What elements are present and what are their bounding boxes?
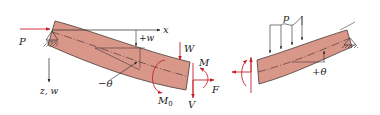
internal-moment-arrow — [200, 68, 208, 88]
distributed-load-label: p — [283, 12, 290, 23]
applied-moment-label: M0 — [157, 95, 173, 108]
axial-force-label: F — [211, 84, 220, 95]
left-beam-body — [48, 21, 190, 90]
axial-load-label: P — [18, 36, 26, 47]
x-axis-label: x — [163, 24, 169, 35]
transverse-load-label: W — [184, 43, 195, 54]
left-beam-group: x z, w P +w −θ M0 W F V M — [18, 21, 220, 110]
right-tangent-extension — [340, 22, 355, 30]
right-internal-moment-arrow — [242, 60, 247, 86]
beam-sign-convention-diagram: x z, w P +w −θ M0 W F V M — [0, 0, 380, 115]
rotation-label-negative: −θ — [98, 78, 112, 89]
rotation-label-positive: +θ — [312, 66, 326, 77]
shear-force-label: V — [188, 99, 197, 110]
deflection-label: +w — [139, 33, 155, 43]
z-axis-label: z, w — [39, 86, 58, 96]
internal-moment-label: M — [198, 57, 210, 68]
right-beam-body — [257, 30, 352, 84]
right-beam-group: p +θ — [232, 12, 358, 93]
